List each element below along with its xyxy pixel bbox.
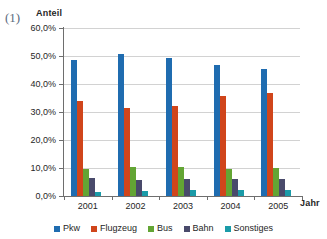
y-axis-title: Anteil [36,8,62,18]
y-axis-tick-label: 20,0% [10,135,56,145]
x-axis-tick [64,196,65,200]
y-axis-tick-labels: 60,0%50,0%40,0%30,0%20,0%10,0%0,0% [8,28,56,196]
x-axis-tick [112,196,113,200]
legend-item[interactable]: Bus [148,224,173,233]
legend-item[interactable]: Flugzeug [91,224,137,233]
x-axis-tick-label: 2002 [112,201,160,211]
legend-swatch-icon [225,226,231,232]
x-axis-tick [302,196,303,200]
legend-item[interactable]: Pkw [54,224,80,233]
x-axis-tick-label: 2004 [207,201,255,211]
y-axis-tick-label: 40,0% [10,79,56,89]
x-axis-tick [207,196,208,200]
legend-swatch-icon [54,226,60,232]
y-axis-tick-label: 60,0% [10,23,56,33]
x-axis-tick [254,196,255,200]
legend-label: Flugzeug [100,224,137,233]
legend-label: Pkw [63,224,80,233]
legend-swatch-icon [184,226,190,232]
y-axis-tick-label: 50,0% [10,51,56,61]
x-axis-tick-label: 2005 [254,201,302,211]
legend-swatch-icon [91,226,97,232]
x-axis-tick-label: 2001 [64,201,112,211]
x-axis-line [63,196,302,197]
x-axis-tick-label: 2003 [159,201,207,211]
gridline [64,56,300,57]
legend-item[interactable]: Bahn [184,224,214,233]
legend-swatch-icon [148,226,154,232]
legend-item[interactable]: Sonstiges [225,224,274,233]
y-axis-tick-label: 30,0% [10,107,56,117]
y-axis-tick-label: 0,0% [10,191,56,201]
plot-area [64,28,302,196]
legend-label: Sonstiges [234,224,274,233]
y-axis-tick-label: 10,0% [10,163,56,173]
legend-label: Bus [157,224,173,233]
gridline [64,28,300,29]
chart-legend: PkwFlugzeugBusBahnSonstiges [0,224,327,233]
cut-off-header-text [150,0,327,7]
bar-chart-figure: (1) Anteil Jahr 60,0%50,0%40,0%30,0%20,0… [0,0,327,239]
legend-label: Bahn [193,224,214,233]
x-axis-tick [159,196,160,200]
